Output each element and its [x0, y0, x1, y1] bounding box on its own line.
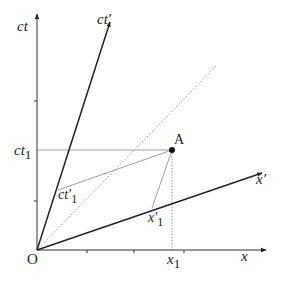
- x-prime-axis-label: x′: [255, 171, 267, 187]
- event-a-label: A: [174, 132, 185, 147]
- ct1-prime-guide: [58, 150, 172, 190]
- x-axis-label: x: [240, 248, 248, 264]
- x1-label: x1: [166, 251, 180, 271]
- x1-prime-guide: [152, 150, 172, 208]
- x1-prime-label: x′1: [147, 210, 163, 229]
- ct1-label: ct1: [14, 142, 31, 162]
- spacetime-diagram: ct ct′ x x′ O A ct1 x1 ct′1 x′1: [0, 0, 283, 281]
- event-point-a: [169, 147, 175, 153]
- origin-label: O: [27, 251, 38, 267]
- ct1-prime-label: ct′1: [58, 187, 77, 206]
- ct-axis-label: ct: [17, 18, 29, 34]
- ct-prime-axis: [37, 22, 110, 250]
- ct-prime-axis-label: ct′: [97, 11, 112, 27]
- light-line: [37, 66, 216, 250]
